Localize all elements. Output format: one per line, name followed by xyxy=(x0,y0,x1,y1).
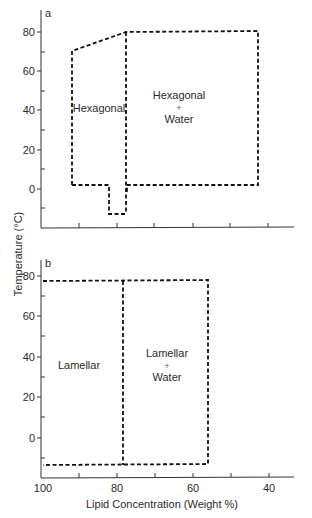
panel-b-y-tick-60: 60 xyxy=(23,310,35,322)
panel-a-label-hex-water-1: Hexagonal xyxy=(153,89,206,101)
x-tick-80: 80 xyxy=(111,482,123,494)
panel-a-y-tick-60: 60 xyxy=(23,65,35,77)
x-axis-title: Lipid Concentration (Weight %) xyxy=(86,498,238,510)
x-tick-60: 60 xyxy=(187,482,199,494)
panel-a-letter: a xyxy=(45,7,52,19)
panel-b-y-tick-80: 80 xyxy=(23,270,35,282)
panel-a: a 80 60 40 20 0 Hexagonal xyxy=(23,7,294,228)
phase-diagram: a 80 60 40 20 0 Hexagonal xyxy=(0,0,312,518)
panel-b-label-lamellar: Lamellar xyxy=(58,359,101,371)
x-tick-100: 100 xyxy=(34,482,52,494)
panel-a-label-hex-water-plus: + xyxy=(176,103,181,113)
panel-a-y-tick-0: 0 xyxy=(29,183,35,195)
panel-b-y-tick-40: 40 xyxy=(23,351,35,363)
panel-b-label-lam-water-plus: + xyxy=(164,361,169,371)
panel-a-label-hex-water-2: Water xyxy=(165,113,194,125)
panel-a-y-tick-20: 20 xyxy=(23,144,35,156)
panel-b-outer-boundary xyxy=(43,280,208,465)
panel-b-label-lam-water-1: Lamellar xyxy=(146,347,189,359)
panel-b: b 80 60 40 20 0 100 80 60 40 xyxy=(23,257,294,494)
panel-b-label-lam-water-2: Water xyxy=(153,371,182,383)
panel-a-y-tick-80: 80 xyxy=(23,26,35,38)
panel-a-notch xyxy=(72,185,126,214)
panel-a-y-tick-40: 40 xyxy=(23,104,35,116)
panel-b-y-tick-20: 20 xyxy=(23,391,35,403)
x-tick-40: 40 xyxy=(263,482,275,494)
panel-b-y-tick-0: 0 xyxy=(29,432,35,444)
panel-b-letter: b xyxy=(45,257,51,269)
panel-a-label-hexagonal: Hexagonal xyxy=(73,102,126,114)
y-axis-title: Temperature (°C) xyxy=(12,212,24,296)
